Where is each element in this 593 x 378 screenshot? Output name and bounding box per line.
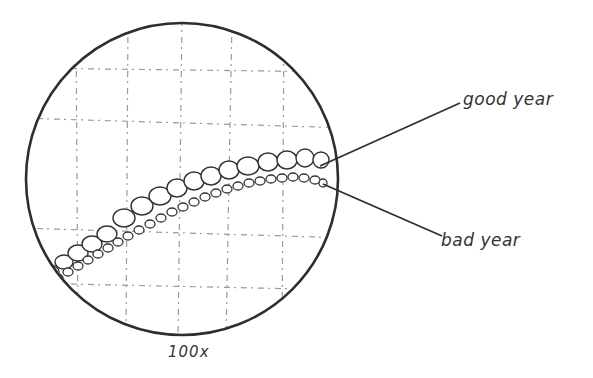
bad-year-leader-line	[323, 184, 442, 236]
magnification-label: 100x	[168, 343, 210, 361]
good-year-label: good year	[463, 89, 553, 109]
bad-year-label: bad year	[441, 230, 520, 250]
good-year-leader-line	[320, 103, 460, 166]
microscope-field-diagram	[0, 0, 593, 378]
